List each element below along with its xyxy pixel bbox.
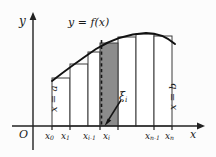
x-tick-label: x0 xyxy=(45,131,54,141)
x-tick-label-subscript: n‑1 xyxy=(150,134,160,141)
x-axis-arrowhead xyxy=(197,123,205,130)
x-tick-label-subscript: i‑1 xyxy=(88,134,96,141)
riemann-rectangle xyxy=(136,34,154,126)
riemann-rectangle xyxy=(154,36,172,126)
sample-point-subscript: i xyxy=(125,95,127,104)
riemann-sum-figure: y O x y = f(x) x = a x = b ξi x0x1xi‑1xi… xyxy=(0,0,216,157)
x-tick-label: xn‑1 xyxy=(145,131,160,141)
sample-point-label: ξi xyxy=(119,90,127,104)
x-tick-label: xi‑1 xyxy=(83,131,96,141)
riemann-rectangle xyxy=(70,64,88,126)
origin-label: O xyxy=(19,128,28,141)
left-boundary-label: x = a xyxy=(48,86,59,112)
x-tick-label-subscript: n xyxy=(170,134,174,141)
riemann-rectangle xyxy=(118,37,136,126)
right-boundary-label: x = b xyxy=(167,83,178,110)
x-tick-label: xi xyxy=(103,131,110,141)
x-tick-label: xn xyxy=(165,131,174,141)
x-tick-label-subscript: 1 xyxy=(66,134,70,141)
y-axis-arrowhead xyxy=(30,12,37,20)
x-tick-label-subscript: 0 xyxy=(50,134,54,141)
x-axis-label: x xyxy=(190,128,196,141)
shaded-riemann-rectangle xyxy=(100,43,118,126)
riemann-rectangle xyxy=(88,52,100,126)
x-tick-label-subscript: i xyxy=(108,134,110,141)
x-tick-label: x1 xyxy=(61,131,70,141)
y-axis-label: y xyxy=(19,14,26,28)
curve-label: y = f(x) xyxy=(68,16,109,29)
